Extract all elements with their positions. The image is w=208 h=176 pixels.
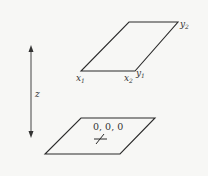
label-x1: x1: [76, 73, 85, 84]
diagram-canvas: z x1 x2 y1 y2 0, 0, 0: [0, 0, 208, 176]
origin-label: 0, 0, 0: [93, 121, 123, 132]
z-axis-arrow: [29, 45, 34, 138]
z-axis-label: z: [34, 89, 40, 99]
origin-cross-marker: [94, 134, 107, 144]
label-y1: y1: [135, 68, 145, 79]
label-x2: x2: [124, 73, 133, 84]
top-plane: [81, 22, 178, 71]
label-y2: y2: [179, 19, 189, 30]
